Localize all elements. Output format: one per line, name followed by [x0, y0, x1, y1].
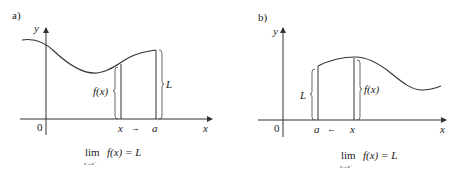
- limit-diagrams: a) y x 0 f(x) L x → a lim x→a⁻ f(x) = L …: [0, 0, 466, 177]
- L-bracket: [310, 69, 315, 120]
- x-axis-label: x: [202, 122, 208, 134]
- lim-expression: f(x) = L: [107, 146, 141, 159]
- panel-a-label: a): [12, 9, 21, 22]
- y-axis-label: y: [272, 25, 278, 37]
- fx-bracket: [357, 60, 362, 120]
- panel-b-label: b): [258, 11, 268, 24]
- lim-text: lim: [85, 146, 100, 158]
- x-tick-label: x: [349, 123, 355, 135]
- L-bracket: [159, 50, 164, 119]
- lim-subscript: x→a⁻: [83, 161, 97, 166]
- lim-expression: f(x) = L: [363, 149, 397, 162]
- fx-bracket: [113, 67, 118, 119]
- fx-label: f(x): [364, 83, 380, 96]
- y-axis-label: y: [33, 22, 39, 34]
- L-label: L: [299, 89, 306, 101]
- function-curve: [22, 40, 156, 74]
- a-tick-label: a: [152, 122, 158, 134]
- panel-a: a) y x 0 f(x) L x → a lim x→a⁻ f(x) = L: [12, 9, 212, 166]
- panel-b: b) y x 0 L f(x) a ← x lim x→a⁺ f(x) = L: [258, 11, 446, 169]
- fx-label: f(x): [93, 85, 109, 98]
- lim-subscript: x→a⁺: [339, 164, 353, 169]
- lim-text: lim: [341, 149, 356, 161]
- x-axis-label: x: [439, 123, 445, 135]
- x-tick-label: x: [117, 122, 123, 134]
- function-curve: [318, 57, 441, 90]
- L-label: L: [165, 78, 172, 90]
- approach-arrow: →: [131, 123, 140, 133]
- approach-arrow: ←: [327, 124, 336, 134]
- origin-label: 0: [37, 121, 43, 133]
- a-tick-label: a: [314, 123, 320, 135]
- origin-label: 0: [274, 122, 280, 134]
